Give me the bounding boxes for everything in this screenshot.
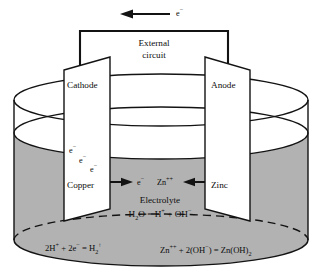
corrosion-cell-diagram: External circuit e− Cathode Copper Anode… [0,0,323,278]
electron-cloud-item-3-sup: − [94,162,98,169]
anode-role-label: Anode [211,80,236,90]
anodic-p3: ) = Zn(OH) [209,245,249,255]
cathode-material-label: Copper [67,180,94,190]
mid-electron-label-sup: − [141,175,145,182]
zinc-ion-label-base: Zn [157,178,166,187]
anode-electrode-plate: Anode Zinc [205,57,250,221]
top-electron-flow-arrow: e− [120,6,184,19]
cathodic-p2: + 2e [59,243,76,253]
electron-cloud-item-1-sup: − [73,143,77,150]
cathodic-reaction-equation: 2H+ + 2e− = H2↑ [45,241,101,255]
cathodic-p3: = H [80,243,95,253]
cathodic-s3: 2 [95,248,98,255]
top-electron-label: e− [176,6,184,18]
cathodic-s4: ↑ [98,241,101,248]
eq-h2o-tail: O = H [138,209,161,219]
anodic-s3: 2 [248,250,251,257]
electron-flow-arrow-head [120,10,133,19]
cathode-role-label: Cathode [67,80,98,90]
cathodic-p1: 2H [45,243,56,253]
anodic-p2: + 2(OH [177,245,206,255]
cathode-electrode-plate: Cathode Copper [64,57,110,221]
external-circuit-label-line2: circuit [142,50,166,60]
anode-material-label: Zinc [211,180,228,190]
eq-oh-sup: − [188,207,192,214]
electrolyte-title: Electrolyte [140,195,180,205]
diagram-canvas: External circuit e− Cathode Copper Anode… [0,0,323,278]
top-electron-label-sup: − [180,6,184,13]
electrolyte-equation: H2O = H+ + OH− [129,207,192,221]
eq-plus: + OH [165,209,188,219]
external-circuit-label-line1: External [138,38,170,48]
zinc-ion-label-sup: ++ [166,175,173,182]
beaker-vessel [14,74,308,266]
electron-cloud-item-2-sup: − [83,153,87,160]
